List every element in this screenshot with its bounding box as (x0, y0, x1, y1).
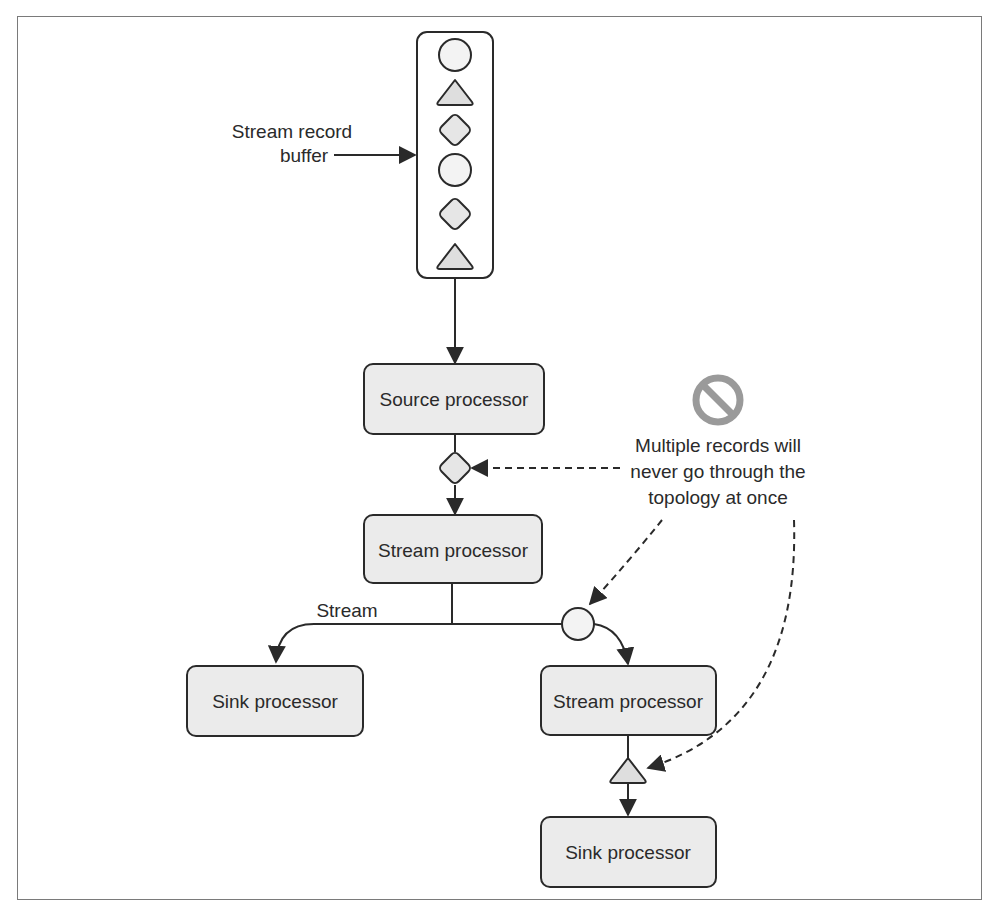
edge-stream-to-stream2 (594, 624, 628, 664)
source-processor-label: Source processor (380, 389, 530, 410)
node-sink-processor-right[interactable]: Sink processor (541, 817, 716, 887)
prohibited-icon (696, 378, 740, 422)
pointer-to-circle (590, 520, 662, 604)
annotation-line1: Multiple records will (635, 435, 801, 456)
node-sink-processor-left[interactable]: Sink processor (187, 666, 363, 736)
stream-processor-2-label: Stream processor (553, 691, 704, 712)
stream-record-buffer (417, 32, 493, 278)
record-circle-icon (439, 154, 471, 186)
in-flight-circle-icon (562, 608, 594, 640)
sink-processor-left-label: Sink processor (212, 691, 338, 712)
buffer-label-line2: buffer (280, 145, 329, 166)
in-flight-triangle-icon (610, 758, 645, 783)
annotation-line3: topology at once (648, 487, 787, 508)
stream-processor-1-label: Stream processor (378, 540, 529, 561)
edge-stream-to-sink-left (276, 624, 562, 662)
edge-label-stream: Stream (316, 600, 377, 621)
sink-processor-right-label: Sink processor (565, 842, 691, 863)
topology-diagram: Stream record buffer Source processor St… (0, 0, 996, 916)
node-stream-processor-2[interactable]: Stream processor (541, 666, 716, 735)
annotation-line2: never go through the (630, 461, 805, 482)
record-circle-icon (439, 39, 471, 71)
in-flight-diamond-icon (438, 451, 472, 485)
buffer-label-line1: Stream record (232, 121, 352, 142)
node-source-processor[interactable]: Source processor (364, 364, 544, 434)
node-stream-processor-1[interactable]: Stream processor (364, 515, 542, 583)
